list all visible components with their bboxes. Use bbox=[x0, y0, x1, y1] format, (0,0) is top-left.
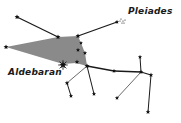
constellation-line bbox=[117, 72, 141, 98]
star-icon bbox=[4, 44, 9, 49]
constellation-line bbox=[67, 66, 87, 83]
star-icon bbox=[92, 92, 96, 96]
pleiades-dot bbox=[124, 19, 125, 20]
pleiades-label: Pleiades bbox=[128, 6, 172, 16]
constellation-line bbox=[67, 83, 71, 96]
shaded-hyades-region bbox=[6, 36, 87, 66]
pleiades-dot bbox=[121, 22, 122, 23]
star-icon bbox=[69, 94, 73, 98]
star-icon bbox=[112, 69, 116, 73]
constellation-line bbox=[17, 17, 58, 37]
constellation-line bbox=[140, 57, 141, 72]
star-markers bbox=[4, 14, 154, 114]
constellation-line bbox=[87, 66, 114, 71]
constellation-line bbox=[148, 75, 151, 112]
pleiades-dot bbox=[122, 20, 123, 21]
constellation-line bbox=[87, 66, 94, 94]
pleiades-dot bbox=[120, 18, 121, 19]
constellation-chart bbox=[0, 0, 181, 123]
aldebaran-label: Aldebaran bbox=[8, 67, 62, 77]
pleiades-cluster-dots bbox=[119, 18, 125, 23]
constellation-line bbox=[114, 71, 141, 72]
taurus-diagram: Pleiades Aldebaran bbox=[0, 0, 181, 123]
pleiades-dot bbox=[123, 22, 124, 23]
star-icon bbox=[146, 110, 151, 114]
constellation-line bbox=[78, 22, 117, 36]
pleiades-dot bbox=[119, 20, 120, 21]
